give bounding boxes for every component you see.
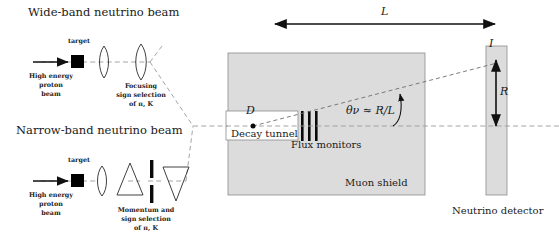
narrowband-target-label: target (58, 157, 100, 164)
wideband-optics-caption-line3: of π, K (95, 100, 187, 109)
wideband-heading: Wide-band neutrino beam (28, 6, 179, 19)
neutrino-beamline-figure: Wide-band neutrino beam target High ener… (0, 0, 559, 237)
wideband-beam-label-line3: beam (12, 91, 90, 98)
wideband-target-label: target (58, 38, 100, 45)
wideband-optics-caption-line1: Focusing (95, 82, 187, 91)
wideband-beam-label-line2: proton (12, 82, 90, 89)
narrowband-beam-label-line2: proton (12, 201, 90, 208)
narrowband-optics-caption-line2: sign selection (96, 215, 196, 224)
narrowband-heading: Narrow-band neutrino beam (16, 124, 183, 137)
wideband-target-block (71, 55, 84, 68)
detector-current-label: I (489, 38, 493, 51)
wideband-optics-caption-line2: sign selection (95, 91, 187, 100)
decay-tunnel-label: Decay tunnel (231, 128, 298, 140)
narrowband-beam-label-line1: High energy (12, 192, 90, 199)
narrowband-optics-caption-line1: Momentum and (96, 206, 196, 215)
angle-formula-label: θν ≈ R/L (346, 105, 395, 118)
narrowband-beam-label-line3: beam (12, 210, 90, 217)
decay-point-label: D (246, 105, 255, 118)
baseline-length-label: L (381, 6, 388, 19)
collimator-bar-lower (150, 185, 153, 203)
narrowband-target-block (71, 174, 84, 187)
muon-shield-label: Muon shield (345, 177, 408, 189)
detector-radius-label: R (500, 86, 508, 99)
beam-connector-lines (150, 46, 193, 181)
flux-monitors-label: Flux monitors (291, 139, 362, 151)
narrowband-optics-caption-line3: of π, K (96, 224, 196, 233)
collimator-bar-upper (150, 160, 153, 178)
wideband-beam-label-line1: High energy (12, 73, 90, 80)
neutrino-detector-label: Neutrino detector (452, 205, 543, 217)
